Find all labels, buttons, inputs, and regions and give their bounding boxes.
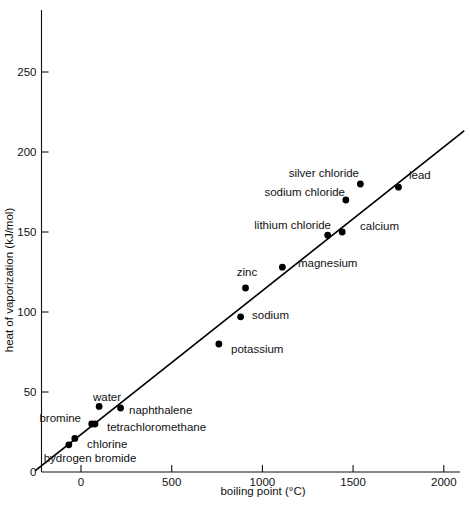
data-point [71, 435, 78, 442]
point-label: sodium chloride [264, 186, 345, 198]
data-point [395, 184, 402, 191]
scatter-plot: hydrogen bromidechlorinebrominetetrachlo… [0, 0, 470, 510]
x-tick-label-500: 500 [162, 476, 181, 488]
data-point [357, 181, 364, 188]
data-point [339, 229, 346, 236]
point-label: lead [409, 169, 431, 181]
data-point [215, 341, 222, 348]
trend-line [36, 131, 464, 470]
data-point [117, 405, 124, 412]
point-label: chlorine [87, 438, 127, 450]
data-point [242, 285, 249, 292]
y-axis-title: heat of vaporization (kJ/mol) [3, 208, 15, 353]
x-tick-label-1500: 1500 [340, 476, 366, 488]
point-label: bromine [39, 412, 81, 424]
point-labels: hydrogen bromidechlorinebrominetetrachlo… [39, 167, 430, 464]
point-label: sodium [252, 309, 289, 321]
data-point [324, 232, 331, 239]
point-label: tetrachloromethane [107, 421, 206, 433]
y-tick-label-50: 50 [24, 386, 37, 398]
y-tick-label-100: 100 [17, 306, 36, 318]
x-axis-title: boiling point (°C) [220, 485, 305, 497]
chart-container: hydrogen bromidechlorinebrominetetrachlo… [0, 0, 470, 510]
y-tick-label-0: 0 [30, 466, 36, 478]
point-label: hydrogen bromide [44, 452, 137, 464]
x-tick-label-0: 0 [78, 476, 84, 488]
point-label: lithium chloride [254, 219, 331, 231]
point-label: silver chloride [289, 167, 359, 179]
x-tick-label-2000: 2000 [431, 476, 457, 488]
y-tick-label-250: 250 [17, 66, 36, 78]
y-tick-label-200: 200 [17, 146, 36, 158]
point-label: water [92, 391, 121, 403]
data-point [237, 313, 244, 320]
point-label: magnesium [298, 257, 357, 269]
data-point [65, 441, 72, 448]
data-point [279, 264, 286, 271]
point-label: calcium [360, 220, 399, 232]
point-label: potassium [231, 343, 283, 355]
point-label: zinc [237, 266, 258, 278]
point-label: naphthalene [129, 404, 192, 416]
data-point [92, 421, 99, 428]
data-point [96, 403, 103, 410]
best-fit-line [36, 131, 464, 470]
y-tick-label-150: 150 [17, 226, 36, 238]
